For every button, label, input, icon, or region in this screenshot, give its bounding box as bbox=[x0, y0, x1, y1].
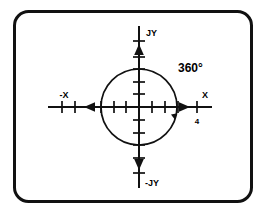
phasor-diagram: JY -JY X -X 360° 4 bbox=[0, 0, 266, 213]
x-tick-label-4: 4 bbox=[195, 117, 200, 126]
neg-jy-axis-label: -JY bbox=[145, 178, 159, 188]
angle-annotation-360: 360° bbox=[178, 61, 203, 75]
x-axis-label: X bbox=[202, 90, 208, 100]
jy-axis-label: JY bbox=[146, 28, 157, 38]
neg-x-axis-label: -X bbox=[60, 90, 69, 100]
figure-root: JY -JY X -X 360° 4 bbox=[0, 0, 266, 213]
